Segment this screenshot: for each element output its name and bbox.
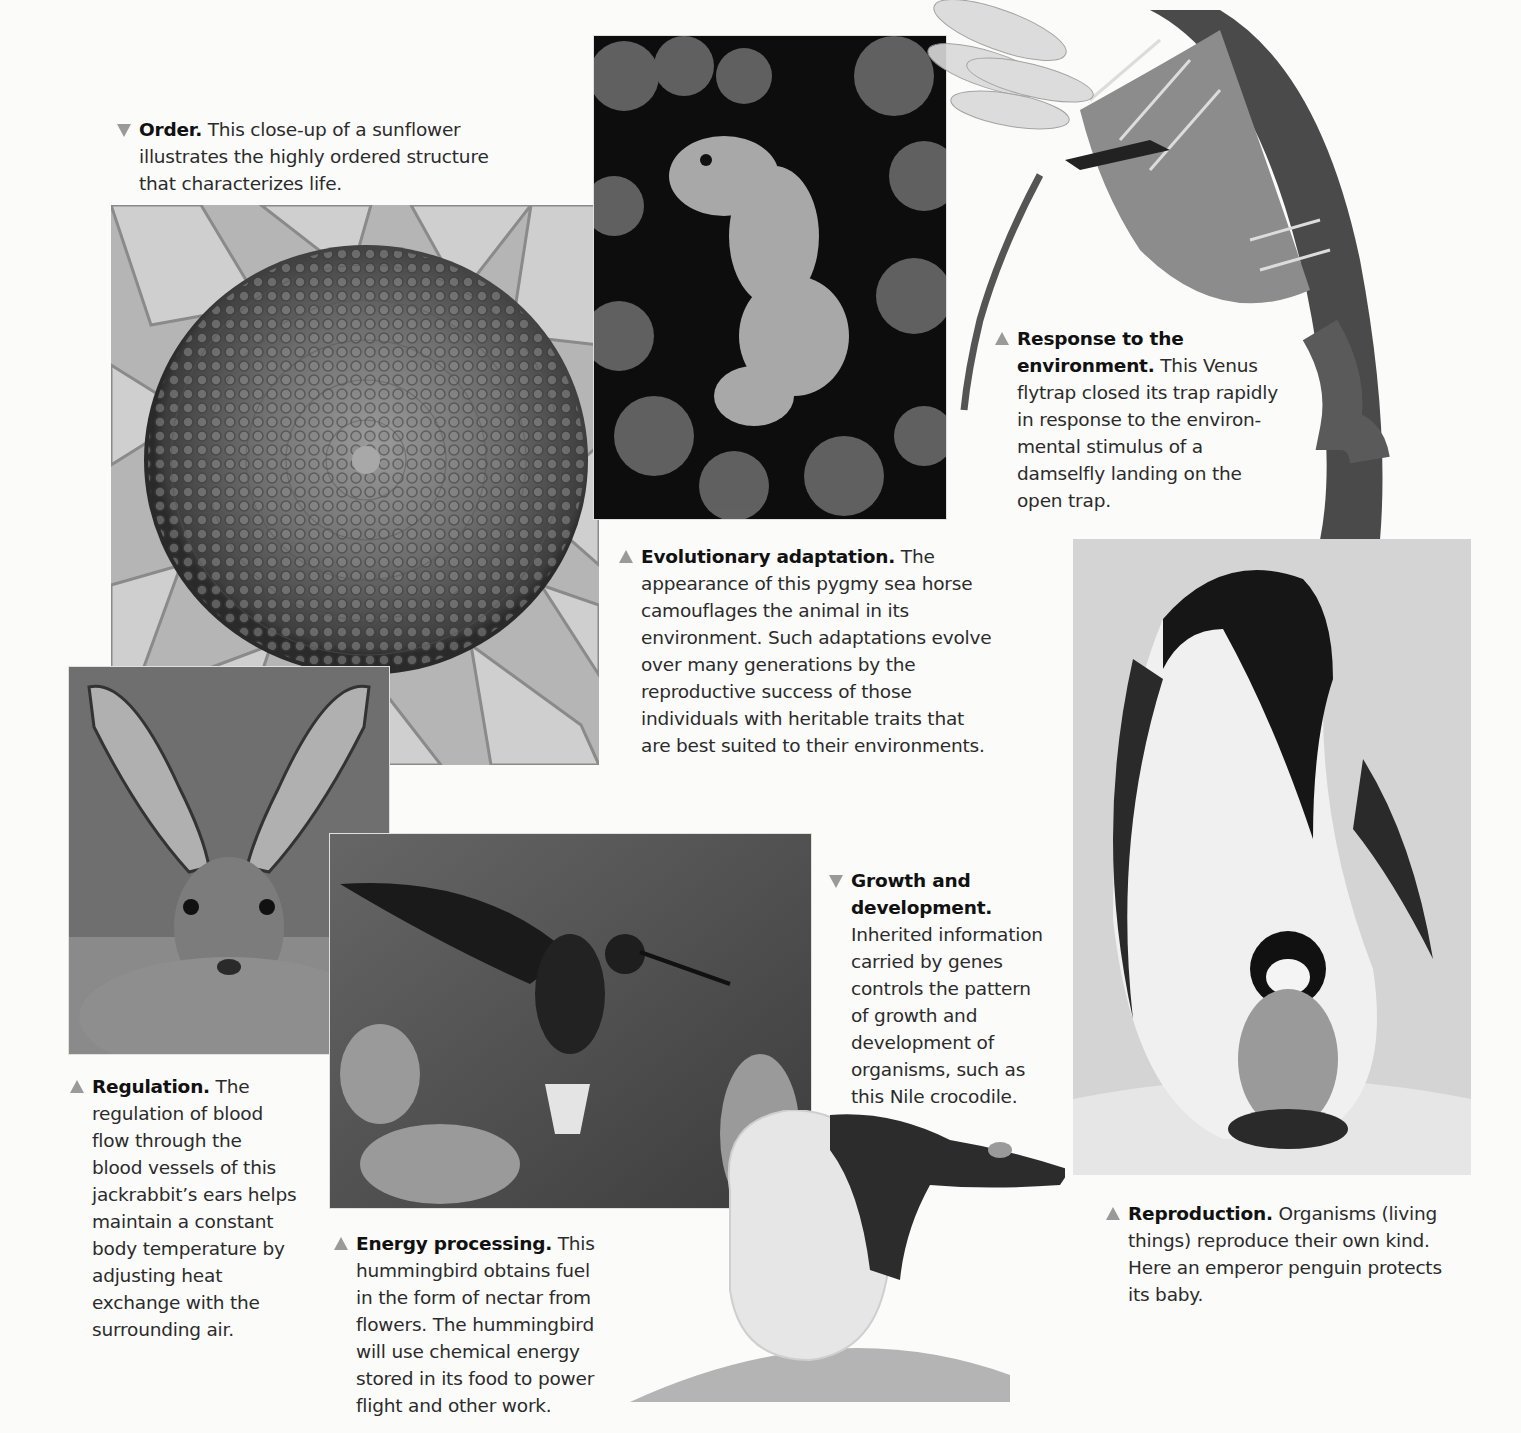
caption-title: Order. [139, 119, 202, 140]
caption-text: This [552, 1233, 595, 1254]
caption-text: Inherited information [851, 921, 1066, 948]
crocodile-photo [630, 1110, 1065, 1402]
caption-title: Growth and [851, 867, 1066, 894]
caption-title: development. [851, 894, 1066, 921]
seahorse-photo [593, 35, 947, 520]
caption-text: regulation of blood [92, 1100, 322, 1127]
caption-title: Response to the [1017, 325, 1317, 352]
caption-text: development of [851, 1029, 1066, 1056]
caption-text: camouflages the animal in its [641, 597, 1021, 624]
caption-text: carried by genes [851, 948, 1066, 975]
caption-text: its baby. [1128, 1281, 1488, 1308]
caption-evolutionary-adaptation: Evolutionary adaptation. The appearance … [641, 543, 1021, 759]
triangle-down-icon [829, 875, 843, 888]
caption-text: are best suited to their environments. [641, 732, 1021, 759]
caption-text: surrounding air. [92, 1316, 322, 1343]
caption-text: hummingbird obtains fuel [356, 1257, 636, 1284]
caption-text: adjusting heat [92, 1262, 322, 1289]
caption-title: Evolutionary adaptation. [641, 546, 895, 567]
caption-text: illustrates the highly ordered structure [139, 143, 559, 170]
triangle-down-icon [117, 124, 131, 137]
caption-text: jackrabbit’s ears helps [92, 1181, 322, 1208]
caption-title: Regulation. [92, 1076, 210, 1097]
caption-text: body temperature by [92, 1235, 322, 1262]
caption-text: exchange with the [92, 1289, 322, 1316]
triangle-up-icon [70, 1080, 84, 1093]
caption-text: will use chemical energy [356, 1338, 636, 1365]
caption-text: damselfly landing on the [1017, 460, 1317, 487]
caption-text: The [210, 1076, 250, 1097]
caption-text: in the form of nectar from [356, 1284, 636, 1311]
triangle-up-icon [1106, 1207, 1120, 1220]
caption-text: appearance of this pygmy sea horse [641, 570, 1021, 597]
caption-growth: Growth and development. Inherited inform… [851, 867, 1066, 1110]
caption-reproduction: Reproduction. Organisms (living things) … [1128, 1200, 1488, 1308]
caption-text: stored in its food to power [356, 1365, 636, 1392]
caption-text: The [895, 546, 935, 567]
caption-response: Response to the environment. This Venus … [1017, 325, 1317, 514]
caption-text: reproductive success of those [641, 678, 1021, 705]
caption-text: controls the pattern [851, 975, 1066, 1002]
caption-text: flow through the [92, 1127, 322, 1154]
triangle-up-icon [619, 550, 633, 563]
caption-order: Order. This close-up of a sunflower illu… [139, 116, 559, 197]
caption-title: Energy processing. [356, 1233, 552, 1254]
caption-energy-processing: Energy processing. This hummingbird obta… [356, 1230, 636, 1419]
caption-text: this Nile crocodile. [851, 1083, 1066, 1110]
triangle-up-icon [995, 332, 1009, 345]
caption-text: This Venus [1155, 355, 1258, 376]
caption-text: Organisms (living [1273, 1203, 1437, 1224]
caption-text: individuals with heritable traits that [641, 705, 1021, 732]
caption-text: Here an emperor penguin protects [1128, 1254, 1488, 1281]
caption-text: over many generations by the [641, 651, 1021, 678]
caption-text: that characterizes life. [139, 170, 559, 197]
caption-text: flight and other work. [356, 1392, 636, 1419]
caption-text: flytrap closed its trap rapidly [1017, 379, 1317, 406]
caption-regulation: Regulation. The regulation of blood flow… [92, 1073, 322, 1343]
caption-text: things) reproduce their own kind. [1128, 1227, 1488, 1254]
caption-title: Reproduction. [1128, 1203, 1273, 1224]
caption-text: This close-up of a sunflower [202, 119, 461, 140]
caption-text: mental stimulus of a [1017, 433, 1317, 460]
caption-text: organisms, such as [851, 1056, 1066, 1083]
caption-text: flowers. The hummingbird [356, 1311, 636, 1338]
caption-text: of growth and [851, 1002, 1066, 1029]
caption-text: environment. Such adaptations evolve [641, 624, 1021, 651]
caption-text: open trap. [1017, 487, 1317, 514]
caption-title: environment. [1017, 355, 1155, 376]
caption-text: blood vessels of this [92, 1154, 322, 1181]
penguin-photo [1073, 539, 1471, 1175]
triangle-up-icon [334, 1237, 348, 1250]
caption-text: in response to the environ- [1017, 406, 1317, 433]
caption-text: maintain a constant [92, 1208, 322, 1235]
